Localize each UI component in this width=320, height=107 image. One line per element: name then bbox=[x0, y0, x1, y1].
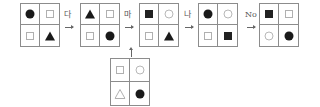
cell bbox=[130, 82, 149, 105]
cell bbox=[81, 25, 100, 46]
cell bbox=[279, 25, 298, 46]
empty-square-icon bbox=[86, 32, 94, 40]
cell bbox=[40, 4, 59, 25]
grid-input bbox=[110, 58, 150, 106]
cell bbox=[81, 4, 100, 25]
cell bbox=[100, 25, 119, 46]
filled-square-icon bbox=[224, 32, 232, 40]
empty-square-icon bbox=[285, 10, 293, 18]
empty-square-icon bbox=[204, 32, 212, 40]
cell bbox=[21, 4, 40, 25]
empty-square-icon bbox=[46, 10, 54, 18]
cell bbox=[159, 4, 178, 25]
transition-label-2: 마 bbox=[124, 11, 131, 19]
transition-label-3: 나 bbox=[184, 11, 191, 19]
arrow-right-icon bbox=[65, 27, 73, 28]
cell bbox=[279, 4, 298, 25]
cell bbox=[159, 25, 178, 46]
arrow-right-icon bbox=[125, 27, 133, 28]
cell bbox=[140, 4, 159, 25]
grid-2 bbox=[80, 3, 120, 47]
cell bbox=[140, 25, 159, 46]
filled-circle-icon bbox=[135, 89, 144, 98]
empty-square-icon bbox=[106, 10, 114, 18]
empty-triangle-icon bbox=[115, 89, 126, 99]
cell bbox=[218, 25, 237, 46]
empty-circle-icon bbox=[265, 31, 274, 40]
empty-square-icon bbox=[116, 66, 124, 74]
filled-circle-icon bbox=[26, 10, 35, 19]
cell bbox=[260, 4, 279, 25]
empty-circle-icon bbox=[164, 10, 173, 19]
cell bbox=[199, 4, 218, 25]
cell bbox=[100, 4, 119, 25]
cell bbox=[40, 25, 59, 46]
filled-circle-icon bbox=[284, 31, 293, 40]
empty-square-icon bbox=[145, 32, 153, 40]
filled-triangle-icon bbox=[164, 31, 174, 40]
arrow-right-icon bbox=[185, 27, 193, 28]
arrow-up-icon bbox=[131, 49, 132, 57]
transition-label-1: 다 bbox=[64, 11, 71, 19]
grid-3 bbox=[139, 3, 179, 47]
cell bbox=[21, 25, 40, 46]
cell bbox=[111, 59, 130, 82]
transition-label-4: No bbox=[245, 11, 257, 19]
cell bbox=[111, 82, 130, 105]
grid-5 bbox=[259, 3, 299, 47]
cell bbox=[260, 25, 279, 46]
filled-circle-icon bbox=[105, 31, 114, 40]
empty-square-icon bbox=[26, 32, 34, 40]
filled-circle-icon bbox=[204, 10, 213, 19]
filled-square-icon bbox=[145, 10, 153, 18]
cell bbox=[218, 4, 237, 25]
grid-4 bbox=[198, 3, 238, 47]
arrow-right-icon bbox=[247, 27, 255, 28]
empty-circle-icon bbox=[223, 10, 232, 19]
filled-square-icon bbox=[265, 10, 273, 18]
grid-1 bbox=[20, 3, 60, 47]
filled-triangle-icon bbox=[85, 10, 95, 19]
cell bbox=[199, 25, 218, 46]
filled-triangle-icon bbox=[45, 31, 55, 40]
empty-circle-icon bbox=[135, 66, 144, 75]
cell bbox=[130, 59, 149, 82]
